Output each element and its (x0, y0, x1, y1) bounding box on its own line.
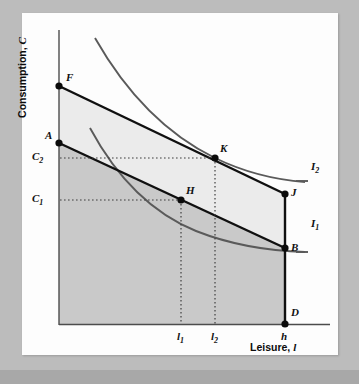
x-tick-label-l1-sub: 1 (180, 336, 184, 345)
x-axis-title: Leisure, l (250, 342, 296, 353)
x-axis-title-symbol: l (293, 341, 296, 353)
x-tick-label-h-letter: h (281, 330, 287, 342)
point-b (281, 244, 288, 251)
y-tick-label-c2-sub: 2 (39, 156, 43, 165)
x-tick-label-l1: l1 (177, 331, 184, 345)
y-tick-label-c1: C1 (32, 193, 43, 207)
x-tick-label-h: h (281, 331, 287, 345)
point-label-k: K (220, 143, 227, 154)
y-tick-label-c1-sub: 1 (39, 198, 43, 207)
point-label-b: B (291, 242, 298, 253)
plot-canvas (0, 0, 359, 384)
y-axis-title: Consumption, C (17, 23, 28, 133)
point-label-j: J (291, 187, 297, 198)
point-h (177, 196, 184, 203)
point-label-d: D (291, 307, 299, 318)
point-label-h: H (186, 185, 195, 196)
point-label-f: F (66, 72, 73, 83)
curve-label-i2-sub: 2 (315, 166, 319, 175)
curve-label-i1: I1 (311, 218, 319, 232)
point-j (281, 190, 288, 197)
x-tick-label-l2: l2 (211, 331, 218, 345)
curve-label-i2: I2 (311, 161, 319, 175)
point-d (281, 320, 288, 327)
point-k (211, 154, 218, 161)
y-axis-title-text: Consumption, (16, 44, 28, 118)
x-tick-label-l2-sub: 2 (214, 336, 218, 345)
figure-root: Consumption, C Leisure, l F A K H J B D … (0, 0, 359, 384)
curve-label-i1-sub: 1 (315, 223, 319, 232)
point-a (55, 139, 62, 146)
point-label-a: A (45, 130, 52, 141)
y-axis-title-symbol: C (16, 37, 28, 44)
point-f (55, 82, 62, 89)
y-tick-label-c2: C2 (32, 151, 43, 165)
